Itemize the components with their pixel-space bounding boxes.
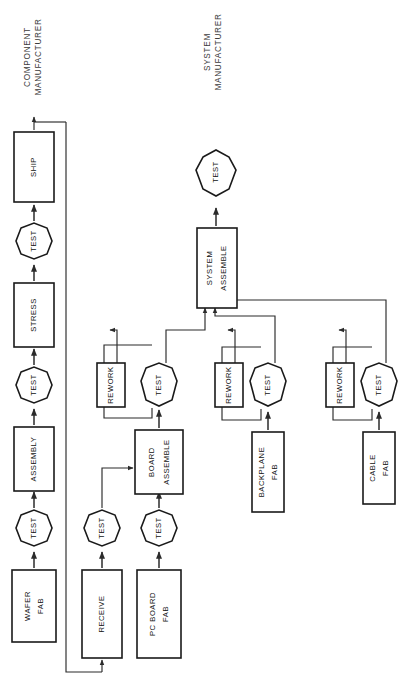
node-test-assembly-label: TEST [29,374,38,396]
edge-test-backplane-to-rework-out [222,406,261,420]
node-system-assemble-line2: ASSEMBLE [219,245,228,290]
node-test-pc-board[interactable]: TEST [141,510,177,546]
node-backplane-fab[interactable]: BACKPLANE FAB [252,432,284,512]
node-test-pc-board-label: TEST [154,517,163,539]
node-system-assemble[interactable]: SYSTEM ASSEMBLE [197,228,237,308]
group-label-component-line2: MANUFACTURER [34,18,43,95]
node-test-stress-label: TEST [29,230,38,252]
node-test-stress[interactable]: TEST [16,223,52,259]
node-rework-backplane[interactable]: REWORK [215,363,243,407]
node-test-board-label: TEST [154,374,163,396]
edge-rework-board-to-test-return [104,345,152,363]
node-pc-board-fab[interactable]: PC BOARD FAB [137,570,181,658]
node-test-system-label: TEST [211,161,220,183]
node-test-wafer[interactable]: TEST [16,510,52,546]
node-test-cable-label: TEST [374,374,383,396]
node-wafer-fab[interactable]: WAFER FAB [12,570,56,642]
node-board-assemble-line1: BOARD [147,447,156,477]
node-test-system[interactable]: TEST [196,150,236,196]
node-wafer-fab-line1: WAFER [23,591,32,621]
node-test-receive[interactable]: TEST [84,510,120,546]
node-assembly-label: ASSEMBLY [29,437,38,482]
node-wafer-fab-line2: FAB [36,598,45,614]
node-test-cable[interactable]: TEST [361,363,397,406]
node-cable-fab-line2: FAB [381,460,390,476]
group-label-system-line2: MANUFACTURER [214,13,223,90]
edge-rework-cable-to-test-return [333,347,372,363]
node-test-backplane[interactable]: TEST [250,363,286,406]
node-backplane-fab-line1: BACKPLANE [257,447,266,498]
flowchart-canvas: COMPONENT MANUFACTURER SYSTEM MANUFACTUR… [0,0,406,687]
node-pc-board-fab-line2: FAB [161,606,170,622]
node-rework-cable[interactable]: REWORK [326,363,354,407]
group-label-system-line1: SYSTEM [203,33,212,71]
group-label-component-line1: COMPONENT [23,27,32,87]
node-stress[interactable]: STRESS [14,283,54,347]
node-stress-label: STRESS [29,298,38,332]
node-rework-board-label: REWORK [106,366,115,403]
group-label-component-manufacturer: COMPONENT MANUFACTURER [23,18,43,95]
edge-rework-board-return-arrow [110,330,117,363]
node-cable-fab-line1: CABLE [368,454,377,482]
node-test-backplane-label: TEST [263,374,272,396]
node-assembly[interactable]: ASSEMBLY [14,427,54,491]
node-receive[interactable]: RECEIVE [82,570,122,658]
edge-test-cable-to-system-assemble [226,300,386,363]
node-test-board[interactable]: TEST [141,363,177,406]
node-test-assembly[interactable]: TEST [16,367,52,403]
node-test-receive-label: TEST [97,517,106,539]
node-cable-fab[interactable]: CABLE FAB [363,432,395,504]
node-rework-backplane-label: REWORK [224,366,233,403]
flowchart-diagram: COMPONENT MANUFACTURER SYSTEM MANUFACTUR… [0,0,406,687]
node-system-assemble-line1: SYSTEM [205,251,214,286]
node-rework-board[interactable]: REWORK [97,363,125,407]
node-board-assemble-line2: ASSEMBLE [162,439,171,484]
node-ship-label: SHIP [29,157,38,177]
node-receive-label: RECEIVE [97,595,106,632]
edge-test-cable-to-rework-out [333,406,372,420]
edge-rework-backplane-to-test-return [222,347,261,363]
edge-test-receive-to-board-assemble [102,468,133,508]
edge-test-backplane-to-system-assemble [215,308,275,363]
node-test-wafer-label: TEST [29,517,38,539]
group-label-system-manufacturer: SYSTEM MANUFACTURER [203,13,223,90]
node-pc-board-fab-line1: PC BOARD [148,592,157,636]
node-board-assemble[interactable]: BOARD ASSEMBLE [135,430,183,494]
edge-test-board-to-system-assemble [166,308,205,363]
node-ship[interactable]: SHIP [14,132,54,202]
node-rework-cable-label: REWORK [335,366,344,403]
node-backplane-fab-line2: FAB [270,464,279,480]
